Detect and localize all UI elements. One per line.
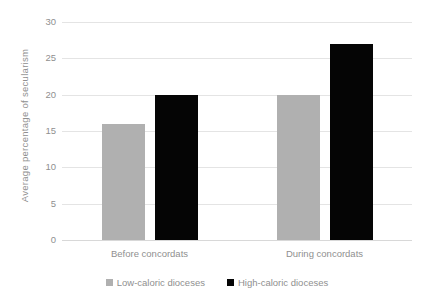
gridline xyxy=(62,240,412,241)
plot-area xyxy=(62,22,412,240)
y-axis-title: Average percentage of secularism xyxy=(19,16,30,236)
legend-swatch-icon xyxy=(227,279,234,286)
y-tick-label: 25 xyxy=(30,53,56,63)
x-axis-label: Before concordats xyxy=(70,248,230,259)
y-tick-label: 10 xyxy=(30,162,56,172)
legend-swatch-icon xyxy=(106,279,113,286)
bar-low-caloric xyxy=(102,124,145,240)
bar-high-caloric xyxy=(155,95,198,240)
legend-label: Low-caloric dioceses xyxy=(117,278,205,288)
bar-low-caloric xyxy=(277,95,320,240)
y-tick-label: 30 xyxy=(30,17,56,27)
bar-high-caloric xyxy=(330,44,373,240)
chart-legend: Low-caloric diocesesHigh-caloric diocese… xyxy=(0,278,434,288)
legend-item[interactable]: High-caloric dioceses xyxy=(227,278,328,288)
y-tick-label: 15 xyxy=(30,126,56,136)
legend-item[interactable]: Low-caloric dioceses xyxy=(106,278,205,288)
y-tick-label: 5 xyxy=(30,199,56,209)
bar-chart: Average percentage of secularism 0510152… xyxy=(0,0,434,304)
y-tick-label: 0 xyxy=(30,235,56,245)
x-axis-label: During concordats xyxy=(245,248,405,259)
legend-label: High-caloric dioceses xyxy=(238,278,328,288)
y-tick-label: 20 xyxy=(30,90,56,100)
gridline xyxy=(62,22,412,23)
